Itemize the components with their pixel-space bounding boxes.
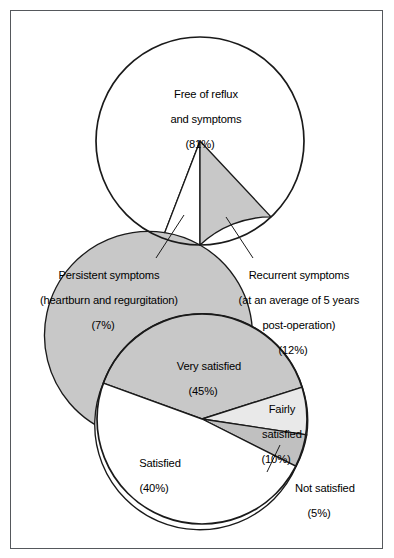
label-free-of-reflux-line1: Free of reflux [174,88,238,100]
label-satisfied-percent: (40%) [106,482,202,495]
label-free-of-reflux: Free of reflux and symptoms (81%) [140,75,260,176]
label-recurrent-symptoms-line1: Recurrent symptoms [249,269,350,281]
label-fairly-satisfied-line2: satisfied [262,428,302,440]
label-satisfied-line1: Satisfied [139,457,181,469]
label-recurrent-symptoms-line2: (at an average of 5 years [239,294,360,306]
label-free-of-reflux-percent: (81%) [140,138,260,151]
label-persistent-symptoms-percent: (7%) [18,319,188,332]
label-satisfied: Satisfied (40%) [106,444,202,520]
label-persistent-symptoms-line1: Persistent symptoms [58,269,159,281]
label-persistent-symptoms-line2: (heartburn and regurgitation) [40,294,178,306]
label-very-satisfied-line1: Very satisfied [177,360,241,372]
label-persistent-symptoms: Persistent symptoms (heartburn and regur… [18,256,188,357]
label-free-of-reflux-line2: and symptoms [170,113,241,125]
label-recurrent-symptoms-line3: post-operation) [262,319,335,331]
figure-container: Free of reflux and symptoms (81%) Persis… [0,0,394,558]
label-fairly-satisfied-line1: Fairly [269,403,295,415]
label-not-satisfied-percent: (5%) [268,507,370,520]
label-not-satisfied: Not satisfied (5%) [268,469,370,545]
label-fairly-satisfied-percent: (10%) [240,453,312,466]
label-not-satisfied-line1: Not satisfied [295,482,355,494]
